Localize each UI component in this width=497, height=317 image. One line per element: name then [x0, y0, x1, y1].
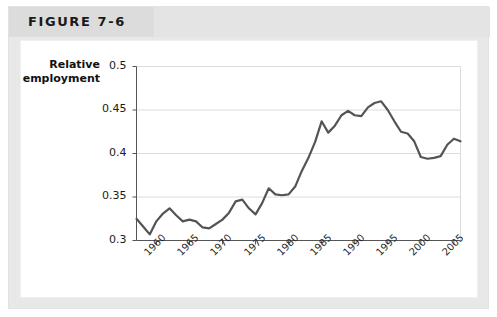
figure-plot-card	[20, 40, 478, 298]
figure-header-band: FIGURE 7-6	[9, 7, 490, 37]
figure-container: FIGURE 7-6 Relative employment 0.30.350.…	[0, 0, 497, 317]
figure-label: FIGURE 7-6	[28, 14, 126, 29]
figure-frame: FIGURE 7-6	[8, 6, 489, 309]
